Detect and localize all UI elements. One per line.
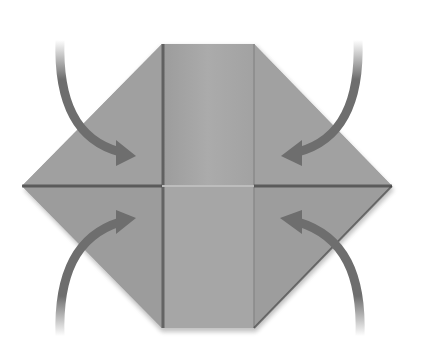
flap-top-left [22,44,162,186]
center-panel-top [162,44,254,186]
center-panel-bottom [162,186,254,328]
diagram-canvas [0,0,423,356]
flap-top-right [254,44,392,186]
origami-diagram [0,0,423,356]
paper-shape [22,44,392,328]
